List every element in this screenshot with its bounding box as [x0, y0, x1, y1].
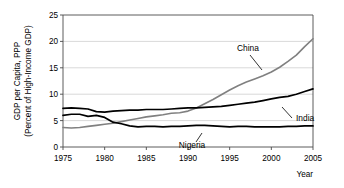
y-tick-label-10: 10 — [49, 90, 59, 99]
y-axis-title-line1: GDP per Capita, PPP — [13, 41, 22, 120]
x-tick-label-1995: 1995 — [221, 154, 240, 163]
y-tick-label-25: 25 — [49, 11, 59, 20]
x-tick-label-2000: 2000 — [262, 154, 281, 163]
y-tick-label-5: 5 — [53, 117, 58, 126]
y-tick-label-15: 15 — [49, 64, 59, 73]
x-tick-label-1980: 1980 — [96, 154, 115, 163]
series-label-nigeria: Nigeria — [179, 140, 206, 150]
y-axis-title-line2: (Percent of High-Income GDP) — [24, 25, 33, 137]
y-tick-label-0: 0 — [53, 143, 58, 152]
chart-container: 0510152025 1975198019851990199520002005 … — [0, 0, 344, 188]
gdp-per-capita-line-chart: 0510152025 1975198019851990199520002005 … — [0, 0, 344, 188]
x-axis-title: Year — [296, 170, 313, 179]
x-tick-label-2005: 2005 — [304, 154, 323, 163]
x-tick-label-1985: 1985 — [137, 154, 156, 163]
series-label-china: China — [237, 43, 259, 53]
x-tick-label-1975: 1975 — [54, 154, 73, 163]
y-tick-label-20: 20 — [49, 37, 59, 46]
x-tick-label-1990: 1990 — [179, 154, 198, 163]
series-label-india: India — [296, 113, 315, 123]
